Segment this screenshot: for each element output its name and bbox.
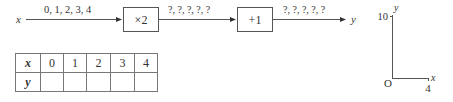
table-cell-x: 2 [96,56,102,70]
coordinate-axes: 10 y O x 4 [378,2,437,94]
y-max-tick-label: 10 [378,11,389,22]
output-variable-label: y [350,13,356,25]
input-values-label: 0, 1, 2, 3, 4 [44,4,92,15]
add-operation-label: +1 [249,13,262,27]
x-axis-label: x [430,72,436,83]
origin-label: O [384,77,392,89]
multiply-operation-label: ×2 [135,13,148,27]
table-header-x: x [24,56,31,70]
table-cell-x: 1 [72,56,78,70]
table-cell-x: 4 [143,56,149,70]
output-values-label: ?, ?, ?, ?, ? [283,4,326,15]
values-table: x y 0 1 2 3 4 [16,54,158,92]
x-max-tick-label: 4 [425,82,431,94]
intermediate-values-label: ?, ?, ?, ?, ? [168,4,211,15]
table-cell-x: 0 [49,56,55,70]
table-header-y: y [23,75,31,89]
table-cell-x: 3 [120,56,126,70]
y-axis-label: y [393,2,399,13]
input-variable-label: x [15,13,21,25]
function-machine-diagram: x 0, 1, 2, 3, 4 ×2 ?, ?, ?, ?, ? +1 ?, ?… [0,0,453,102]
